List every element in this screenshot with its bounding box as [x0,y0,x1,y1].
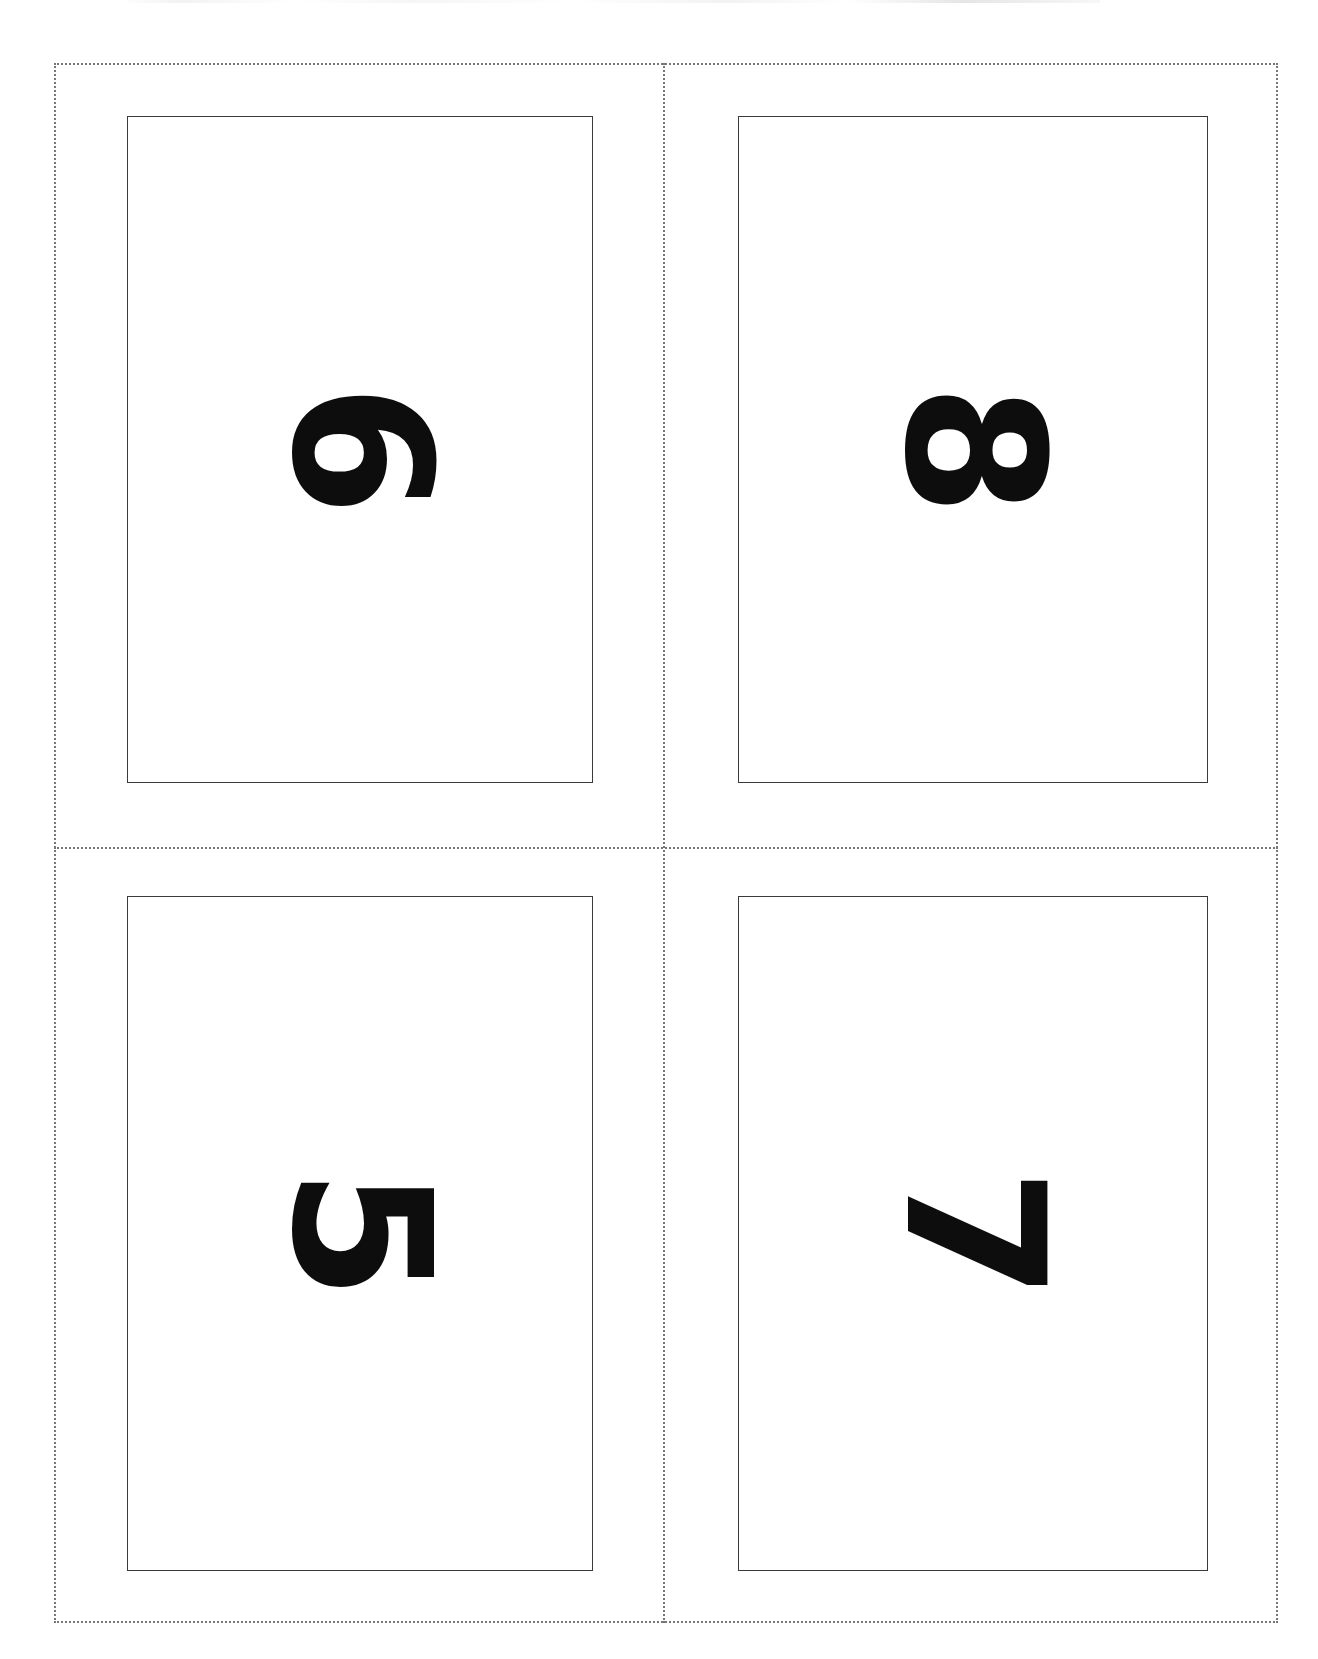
flashcard-number: 8 [878,383,1068,515]
flashcard-top-left[interactable]: 6 [127,116,593,783]
cut-guide-horizontal-divider [54,847,1278,849]
flashcard-top-right[interactable]: 8 [738,116,1208,783]
flashcard-number: 7 [878,1167,1068,1299]
flashcard-bottom-right[interactable]: 7 [738,896,1208,1571]
flashcard-sheet-page: 6 8 5 7 [0,0,1318,1659]
flashcard-number: 6 [265,383,455,515]
flashcard-number: 5 [265,1167,455,1299]
flashcard-bottom-left[interactable]: 5 [127,896,593,1571]
cut-guide-vertical-divider [663,63,665,1623]
scan-artifact [120,0,1100,3]
